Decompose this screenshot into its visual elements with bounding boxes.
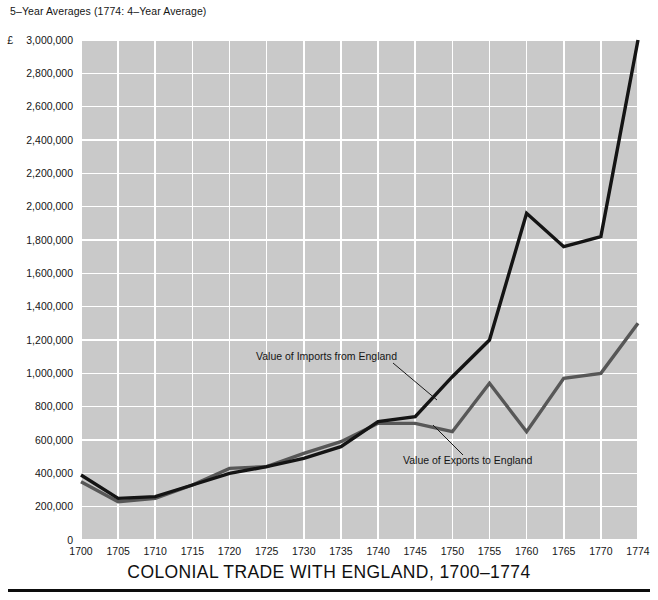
y-tick-label: 600,000 [35,434,73,446]
y-tick-label: 2,800,000 [26,67,73,79]
y-tick-label: 1,400,000 [26,300,73,312]
y-tick-label: 1,200,000 [26,334,73,346]
y-tick-label: 1,600,000 [26,267,73,279]
y-tick-label: 2,600,000 [26,100,73,112]
x-tick-label: 1774 [626,545,650,557]
chart-title: COLONIAL TRADE WITH ENGLAND, 1700–1774 [0,562,658,583]
x-tick-label: 1770 [589,545,613,557]
x-tick-label: 1730 [292,545,316,557]
x-tick-label: 1755 [478,545,502,557]
x-tick-label: 1700 [69,545,93,557]
averaging-note: 5–Year Averages (1774: 4–Year Average) [10,5,206,17]
currency-symbol: £ [7,34,13,46]
x-tick-label: 1765 [552,545,576,557]
x-tick-label: 1705 [106,545,130,557]
chart-figure: 5–Year Averages (1774: 4–Year Average) 0… [0,0,658,600]
y-tick-label: 3,000,000 [26,34,73,46]
exports-annotation-label: Value of Exports to England [403,454,533,466]
title-underline-rule [8,589,650,592]
x-tick-label: 1750 [441,545,465,557]
x-tick-label: 1715 [181,545,205,557]
x-tick-label: 1740 [366,545,390,557]
x-tick-label: 1760 [515,545,539,557]
y-axis-tick-labels: 0200,000400,000600,000800,0001,000,0001,… [7,34,73,546]
y-tick-label: 2,200,000 [26,167,73,179]
y-tick-label: 1,000,000 [26,367,73,379]
y-tick-label: 2,000,000 [26,200,73,212]
y-tick-label: 800,000 [35,400,73,412]
y-tick-label: 1,800,000 [26,234,73,246]
trade-line-chart: 0200,000400,000600,000800,0001,000,0001,… [0,0,658,600]
y-tick-label: 200,000 [35,500,73,512]
y-tick-label: 2,400,000 [26,134,73,146]
x-tick-label: 1720 [218,545,242,557]
x-axis-tick-labels: 1700170517101715172017251730173517401745… [69,545,650,557]
x-tick-label: 1745 [404,545,428,557]
plot-background [81,40,638,540]
x-tick-label: 1710 [144,545,168,557]
x-tick-label: 1725 [255,545,279,557]
y-tick-label: 400,000 [35,467,73,479]
imports-annotation-label: Value of Imports from England [256,350,397,362]
y-tick-label: 0 [67,534,73,546]
x-tick-label: 1735 [329,545,353,557]
